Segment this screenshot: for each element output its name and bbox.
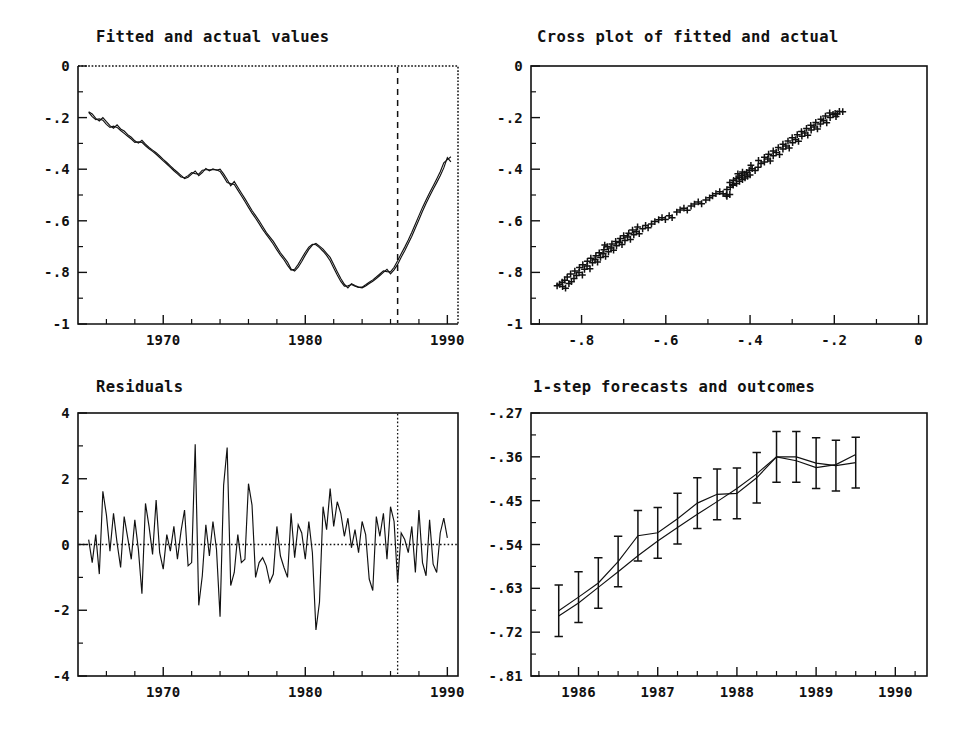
plus-marker [811, 123, 818, 130]
plus-marker [596, 249, 603, 256]
x-tick-label: 1990 [855, 685, 935, 699]
figure-root: Fitted and actual values0-.2-.4-.6-.8-11… [0, 0, 954, 737]
plus-marker [559, 279, 566, 286]
panel-title-one-step-forecasts: 1-step forecasts and outcomes [533, 380, 815, 396]
plus-marker [720, 190, 727, 197]
plus-marker [733, 175, 740, 182]
plus-marker [752, 167, 759, 174]
y-tick-label: -1 [12, 317, 70, 331]
y-tick-label: -.6 [12, 214, 70, 228]
plus-marker [820, 117, 827, 124]
plus-marker [568, 278, 575, 285]
plus-marker [619, 241, 626, 248]
plus-marker [688, 203, 695, 210]
plus-marker [713, 190, 720, 197]
plus-marker [571, 268, 578, 275]
series-fitted [89, 112, 451, 287]
plus-marker [655, 216, 662, 223]
error-bar [614, 536, 622, 587]
x-tick-label: -.6 [626, 333, 706, 347]
plus-marker [587, 255, 594, 262]
plus-marker [830, 111, 837, 118]
plus-marker [739, 176, 746, 183]
plus-marker [827, 114, 834, 121]
series-forecast [559, 457, 856, 611]
plus-marker [571, 275, 578, 282]
y-tick-label: -.8 [465, 265, 523, 279]
x-tick-label: -.2 [794, 333, 874, 347]
plus-marker [634, 224, 641, 231]
plus-marker [749, 165, 756, 172]
error-bar [654, 507, 662, 558]
plus-marker [573, 272, 580, 279]
y-tick-label: 4 [12, 406, 70, 420]
plus-marker [780, 146, 787, 153]
plus-marker [804, 132, 811, 139]
plus-marker [666, 212, 673, 219]
plot-frame-residuals [78, 413, 458, 676]
plus-marker [592, 252, 599, 259]
panel-title-cross-plot: Cross plot of fitted and actual [537, 30, 839, 46]
plus-marker [556, 281, 563, 288]
y-tick-label: -4 [12, 669, 70, 683]
y-tick-label: -.27 [465, 406, 523, 420]
plus-marker [792, 136, 799, 143]
plus-marker [601, 242, 608, 249]
y-tick-label: -.8 [12, 265, 70, 279]
plus-marker [798, 128, 805, 135]
y-tick-label: -.6 [465, 214, 523, 228]
error-bar [792, 432, 800, 483]
plus-marker [681, 205, 688, 212]
error-bar [812, 438, 820, 489]
plus-marker [748, 162, 755, 169]
plus-marker [695, 199, 702, 206]
plus-marker [581, 266, 588, 273]
y-tick-label: -.63 [465, 581, 523, 595]
error-bar [634, 510, 642, 561]
plus-marker [726, 191, 733, 198]
scatter-points [554, 108, 846, 292]
plus-marker [786, 145, 793, 152]
plus-marker [803, 125, 810, 132]
series-residual [89, 444, 448, 630]
plus-marker [629, 227, 636, 234]
plus-marker [767, 158, 774, 165]
axis-ticks-cross-plot [531, 66, 919, 324]
plus-marker [564, 274, 571, 281]
plus-marker [789, 139, 796, 146]
plus-marker [761, 159, 768, 166]
error-bar [555, 585, 563, 637]
plus-marker [798, 133, 805, 140]
plus-marker [576, 269, 583, 276]
x-tick-label: 1988 [697, 685, 777, 699]
error-bar [852, 437, 860, 488]
plus-marker [677, 207, 684, 214]
plus-marker [608, 244, 615, 251]
plus-marker [706, 194, 713, 201]
plus-marker [817, 121, 824, 128]
x-tick-label: -.4 [710, 333, 790, 347]
error-bar [832, 440, 840, 491]
plus-marker [608, 241, 615, 248]
plus-marker [579, 272, 586, 279]
plus-marker [600, 246, 607, 253]
plus-marker [733, 180, 740, 187]
plus-marker [617, 235, 624, 242]
plus-marker [729, 181, 736, 188]
plus-marker [554, 282, 561, 289]
x-tick-label: 1980 [265, 333, 345, 347]
plus-marker [559, 283, 566, 290]
x-tick-label: 1987 [618, 685, 698, 699]
plus-marker [755, 164, 762, 171]
plus-marker [579, 261, 586, 268]
plot-frame-fitted-and-actual [78, 66, 458, 324]
plus-marker [716, 188, 723, 195]
axis-ticks-residuals [78, 413, 447, 676]
plus-marker [616, 239, 623, 246]
y-tick-label: -.4 [12, 162, 70, 176]
plus-marker [698, 200, 705, 207]
plus-marker [723, 186, 730, 193]
plus-marker [684, 207, 691, 214]
plus-marker [600, 250, 607, 257]
plus-marker [597, 254, 604, 261]
